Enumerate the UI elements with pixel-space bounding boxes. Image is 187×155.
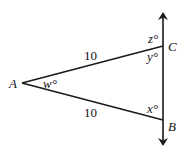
side-length-AB: 10 (84, 105, 97, 120)
triangle-diagram: A C B 10 10 w° z° y° x° (0, 0, 187, 155)
angle-label-z: z° (147, 31, 158, 46)
diagram-svg: A C B 10 10 w° z° y° x° (0, 0, 187, 155)
angle-label-y: y° (145, 49, 158, 64)
vertex-label-A: A (8, 76, 17, 91)
vertex-label-C: C (168, 39, 177, 54)
vertex-label-B: B (168, 119, 176, 134)
angle-label-w: w° (43, 76, 57, 91)
side-length-AC: 10 (84, 48, 97, 63)
angle-label-x: x° (146, 101, 158, 116)
